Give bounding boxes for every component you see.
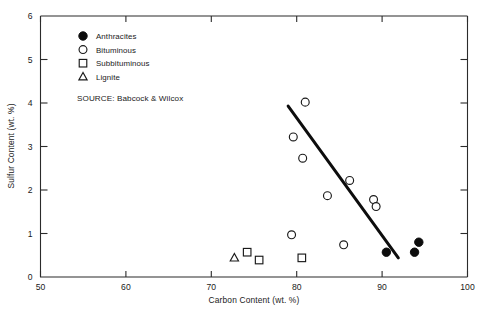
data-point-bituminous	[299, 154, 307, 162]
y-axis-ticks	[41, 60, 468, 234]
data-point-anthracites	[382, 248, 390, 256]
scatter-chart: 5060708090100 0123456 AnthracitesBitumin…	[0, 0, 489, 322]
data-point-bituminous	[288, 231, 296, 239]
data-point-bituminous	[340, 241, 348, 249]
legend-label: Anthracites	[96, 32, 137, 41]
legend-label: Bituminous	[96, 46, 136, 55]
data-point-subbituminous	[298, 254, 306, 262]
data-point-lignite	[230, 253, 238, 261]
y-tick-label: 1	[28, 229, 33, 239]
y-tick-label: 4	[28, 98, 33, 108]
y-tick-label: 0	[28, 272, 33, 282]
legend-label: Lignite	[96, 73, 120, 82]
data-point-anthracites	[410, 248, 418, 256]
plot-area: 5060708090100 0123456 AnthracitesBitumin…	[0, 0, 489, 322]
data-point-bituminous	[289, 133, 297, 141]
x-axis-tick-labels: 5060708090100	[36, 282, 475, 292]
x-tick-label: 50	[36, 282, 46, 292]
axes-group	[41, 16, 468, 277]
y-tick-label: 3	[28, 142, 33, 152]
x-axis-ticks	[41, 16, 468, 277]
y-axis-title: Sulfur Content (wt. %)	[6, 103, 16, 188]
x-tick-label: 100	[460, 282, 475, 292]
data-point-bituminous	[346, 176, 354, 184]
data-points-group	[230, 98, 423, 264]
data-point-anthracites	[415, 238, 423, 246]
source-annotation: SOURCE: Babcock & Wilcox	[77, 94, 183, 103]
x-tick-label: 70	[207, 282, 217, 292]
legend-marker-filled-circle	[79, 32, 87, 40]
data-point-bituminous	[301, 98, 309, 106]
legend-label: Subbituminous	[96, 59, 150, 68]
x-axis-title: Carbon Content (wt. %)	[209, 295, 300, 305]
y-tick-label: 2	[28, 185, 33, 195]
legend-marker-open-square	[79, 59, 87, 67]
y-axis-tick-labels: 0123456	[28, 11, 33, 282]
x-tick-label: 90	[377, 282, 387, 292]
x-tick-label: 80	[292, 282, 302, 292]
y-tick-label: 6	[28, 11, 33, 21]
legend-marker-open-circle	[79, 46, 87, 54]
trend-line	[288, 106, 398, 258]
legend: AnthracitesBituminousSubbituminousLignit…	[77, 32, 183, 103]
data-point-subbituminous	[255, 256, 263, 264]
data-point-bituminous	[323, 192, 331, 200]
data-point-bituminous	[372, 203, 380, 211]
data-point-subbituminous	[243, 248, 251, 256]
x-tick-label: 60	[121, 282, 131, 292]
y-tick-label: 5	[28, 55, 33, 65]
legend-marker-open-triangle	[79, 72, 87, 80]
